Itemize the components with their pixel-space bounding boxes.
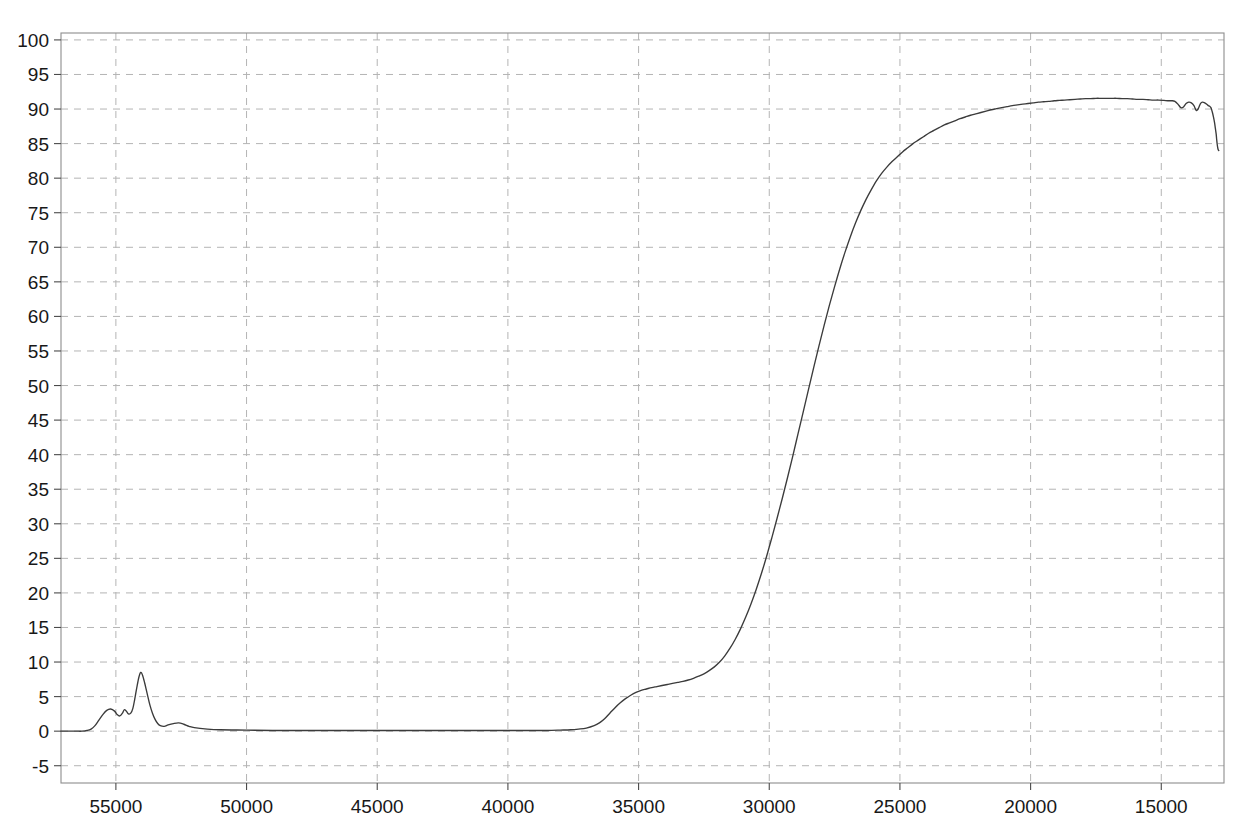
y-tick-label: 60 bbox=[28, 306, 49, 327]
y-tick-label: 70 bbox=[28, 237, 49, 258]
chart-canvas: -505101520253035404550556065707580859095… bbox=[0, 0, 1253, 840]
y-tick-label: 35 bbox=[28, 479, 49, 500]
x-tick-label: 40000 bbox=[481, 796, 534, 817]
y-tick-label: 50 bbox=[28, 376, 49, 397]
y-tick-label: 100 bbox=[17, 30, 49, 51]
x-tick-label: 30000 bbox=[743, 796, 796, 817]
y-tick-label: 40 bbox=[28, 445, 49, 466]
x-axis-tick-labels: 5500050000450004000035000300002500020000… bbox=[89, 796, 1187, 817]
y-tick-label: 5 bbox=[38, 687, 49, 708]
y-tick-label: 85 bbox=[28, 134, 49, 155]
x-tick-label: 15000 bbox=[1135, 796, 1188, 817]
y-tick-label: 20 bbox=[28, 583, 49, 604]
y-tick-label: 25 bbox=[28, 548, 49, 569]
y-tick-label: 10 bbox=[28, 652, 49, 673]
y-tick-label: 90 bbox=[28, 99, 49, 120]
x-tick-label: 50000 bbox=[220, 796, 273, 817]
y-tick-label: 65 bbox=[28, 272, 49, 293]
y-tick-label: 55 bbox=[28, 341, 49, 362]
y-tick-label: 15 bbox=[28, 617, 49, 638]
x-tick-label: 45000 bbox=[351, 796, 404, 817]
y-tick-label: 0 bbox=[38, 721, 49, 742]
y-tick-label: 45 bbox=[28, 410, 49, 431]
y-tick-label: 80 bbox=[28, 168, 49, 189]
y-tick-label: -5 bbox=[32, 756, 49, 777]
spectrum-chart: -505101520253035404550556065707580859095… bbox=[0, 0, 1253, 840]
y-tick-label: 75 bbox=[28, 203, 49, 224]
x-tick-label: 35000 bbox=[612, 796, 665, 817]
x-tick-label: 20000 bbox=[1004, 796, 1057, 817]
x-tick-label: 25000 bbox=[874, 796, 927, 817]
y-tick-label: 95 bbox=[28, 64, 49, 85]
x-tick-label: 55000 bbox=[89, 796, 142, 817]
y-tick-label: 30 bbox=[28, 514, 49, 535]
